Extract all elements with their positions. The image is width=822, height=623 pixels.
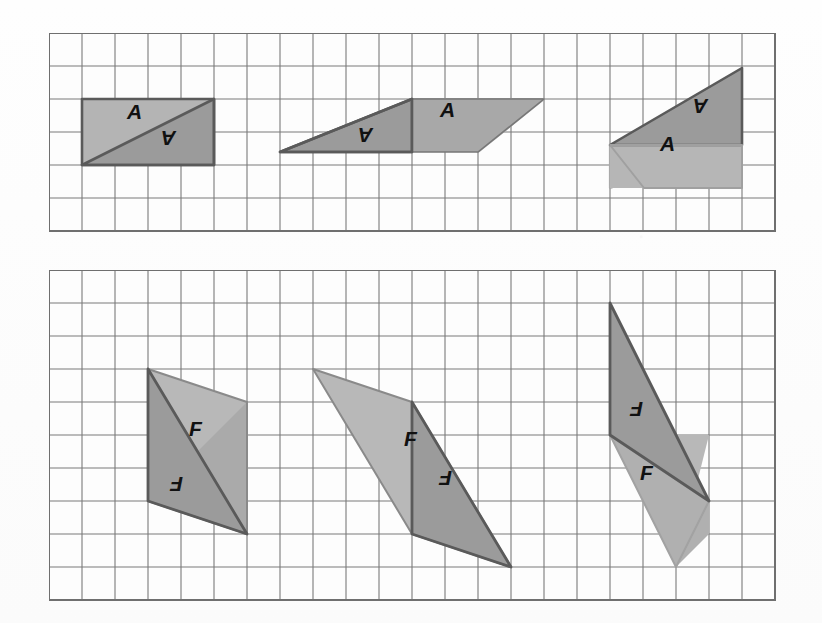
figure-a-3-label-dark: A xyxy=(693,95,709,118)
figure-a-2-label-dark: A xyxy=(358,124,374,147)
triangle-f-panel-svg: F F F F F F xyxy=(49,270,776,601)
figure-f-2-label-dark: F xyxy=(438,467,452,490)
figure-a-3-light-body xyxy=(610,145,742,188)
figure-a-1-label-lower: A xyxy=(161,127,177,150)
figure-a-3-label-light: A xyxy=(659,132,675,155)
figure-a-1: A A xyxy=(82,99,214,165)
triangle-f-panel: F F F F F F xyxy=(49,270,776,601)
figure-a-1-label-upper: A xyxy=(126,100,142,123)
figure-f-1-label-upper: F xyxy=(189,417,203,440)
worksheet-page: A A A A A A xyxy=(0,0,822,623)
figure-a-2-label-light: A xyxy=(439,98,455,121)
figure-f-1-label-lower: F xyxy=(169,473,183,496)
figure-f-3-label-dark: F xyxy=(629,398,643,421)
triangle-a-panel: A A A A A A xyxy=(49,33,776,232)
figure-f-2-label-light: F xyxy=(404,427,418,450)
figure-f-3-label-light: F xyxy=(640,461,654,484)
triangle-a-panel-svg: A A A A A A xyxy=(49,33,776,232)
